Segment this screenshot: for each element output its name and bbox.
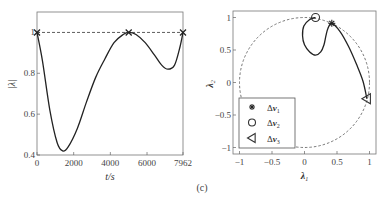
trajectory-line <box>303 18 367 99</box>
y-tick-label: 0 <box>227 78 232 88</box>
x-tick-label: 7962 <box>174 158 192 168</box>
figure: 020004000600079620.40.60.81 t/s |λ| −1−0… <box>0 0 388 209</box>
magnitude-line <box>37 32 183 151</box>
right-markers <box>312 14 371 104</box>
y-tick-label: 0.8 <box>24 68 36 78</box>
x-tick-label: 0 <box>302 157 307 167</box>
y-tick-label: 0.6 <box>24 109 36 119</box>
marker-dv1 <box>328 20 335 27</box>
y-tick-label: −1 <box>221 143 231 153</box>
figure-caption: (c) <box>196 182 207 194</box>
y-tick-label: 0.5 <box>220 45 232 55</box>
x-tick-label: −1 <box>235 157 245 167</box>
x-tick-label: −0.5 <box>264 157 281 167</box>
left-ticks: 020004000600079620.40.60.81 <box>24 27 192 168</box>
left-series <box>37 32 183 151</box>
x-tick-label: 0 <box>35 158 40 168</box>
left-plot-frame <box>37 12 183 155</box>
right-chart: −1−0.500.51−1−0.500.51 Δv1Δv2Δv3 λ1 λ2 <box>204 11 376 182</box>
x-tick-label: 2000 <box>65 158 84 168</box>
left-chart: 020004000600079620.40.60.81 t/s |λ| <box>6 12 192 182</box>
legend: Δv1Δv2Δv3 <box>239 98 295 148</box>
x-tick-label: 0.5 <box>331 157 343 167</box>
legend-asterisk-icon <box>249 104 255 110</box>
y-tick-label: 1 <box>227 13 232 23</box>
right-y-axis-label: λ2 <box>204 80 216 88</box>
x-tick-label: 6000 <box>138 158 157 168</box>
x-tick-label: 4000 <box>101 158 120 168</box>
y-tick-label: 1 <box>31 27 36 37</box>
left-y-axis-label: |λ| <box>6 79 17 89</box>
right-x-axis-label: λ1 <box>300 170 308 182</box>
y-tick-label: 0.4 <box>24 150 36 160</box>
y-tick-label: −0.5 <box>215 110 232 120</box>
x-tick-label: 1 <box>367 157 372 167</box>
right-series <box>303 18 367 99</box>
left-x-axis-label: t/s <box>105 171 115 182</box>
